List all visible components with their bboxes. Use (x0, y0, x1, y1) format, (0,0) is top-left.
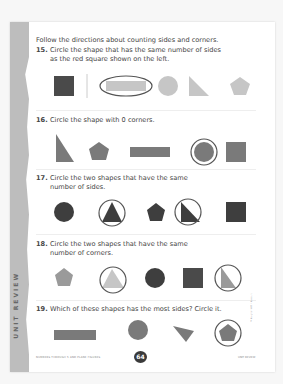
question-18: 18.Circle the two shapes that have the s… (36, 240, 266, 258)
question-15: 15.Circle the shape that has the same nu… (36, 46, 266, 64)
worksheet-page: UNIT REVIEW Follow the directions about … (10, 22, 275, 372)
right-triangle-shape (189, 76, 209, 96)
pentagon-shape (89, 142, 109, 160)
question-16: 16.Circle the shape with 0 corners. (36, 116, 266, 125)
directions: Follow the directions about counting sid… (36, 36, 218, 44)
right-triangle-shape (181, 202, 200, 222)
rectangle-shape (106, 81, 146, 91)
circle-shape (194, 142, 214, 162)
triangle-shape (102, 202, 122, 222)
separator (36, 300, 256, 301)
square-shape (54, 76, 74, 96)
square-shape (226, 142, 246, 162)
question-17: 17.Circle the two shapes that have the s… (36, 174, 266, 192)
triangle-shape (102, 269, 124, 288)
page-number: 64 (134, 351, 147, 363)
circle-shape (145, 268, 165, 288)
triangle-shape (173, 326, 194, 342)
right-triangle-shape (56, 134, 74, 162)
pentagon-shape (219, 324, 237, 341)
rectangle-shape (54, 330, 96, 340)
q16-shapes[interactable] (54, 132, 254, 162)
circle-shape (158, 76, 178, 96)
q19-shapes[interactable] (54, 318, 254, 348)
square-shape (226, 202, 246, 222)
q15-shapes[interactable] (54, 74, 254, 99)
pentagon-shape (147, 203, 165, 221)
pentagon-shape (230, 77, 250, 95)
footer-section: UNIT REVIEW (238, 356, 255, 359)
square-shape (183, 268, 203, 288)
rectangle-shape (130, 147, 170, 157)
question-19: 19.Which of these shapes has the most si… (36, 305, 266, 314)
separator (36, 234, 256, 235)
right-triangle-shape (221, 267, 236, 288)
unit-review-label: UNIT REVIEW (12, 272, 24, 339)
copyright-notice: © Houghton Mifflin Harcourt (250, 287, 253, 322)
circle-shape (128, 320, 148, 340)
separator (36, 110, 256, 111)
pentagon-shape (55, 268, 73, 286)
footer-chapter: NUMBERS THROUGH 5 AND PLANE FIGURES (36, 356, 100, 359)
separator (36, 169, 256, 170)
circle-shape (54, 202, 74, 222)
q17-shapes[interactable] (54, 198, 254, 228)
q18-shapes[interactable] (54, 264, 254, 294)
